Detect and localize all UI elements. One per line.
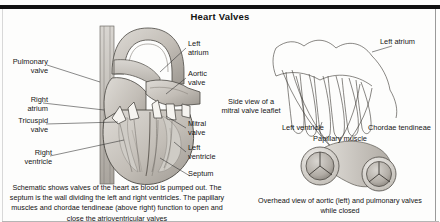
label-right-ventricle: Right ventricle [6, 149, 52, 166]
figure-frame: Heart Valves [0, 0, 440, 222]
label-left-atrium: Left atrium [188, 40, 228, 57]
aortic-pulmonary-overhead-group [301, 141, 396, 191]
label-aortic-valve: Aortic valve [188, 70, 228, 87]
label-left-ventricle: Left ventricle [188, 144, 232, 161]
aortic-valve-disc [301, 147, 339, 185]
label-side-view-note: Side view of a mitral valve leaflet [205, 98, 297, 115]
label-septum: Septum [188, 170, 232, 179]
figure-caption-right: Overhead view of aortic (left) and pulmo… [250, 196, 430, 216]
label-left-atrium-right: Left atrium [380, 38, 438, 47]
pulmonary-valve-disc [362, 157, 396, 191]
label-pulmonary-valve: Pulmonary valve [6, 58, 48, 75]
label-right-atrium: Right atrium [10, 96, 48, 113]
figure-caption-main: Schematic shows valves of the heart as b… [6, 183, 228, 222]
heart-cutaway-group [100, 26, 200, 184]
label-tricuspid-valve: Tricuspid valve [4, 117, 48, 134]
label-chordae-tendineae: Chordae tendineae [368, 124, 440, 133]
leader-lines-right-top [320, 46, 392, 128]
label-mitral-valve: Mitral valve [188, 120, 228, 137]
label-left-ventricle-right: Left ventricle [282, 124, 334, 133]
label-papillary-muscle: Papillary muscle [300, 135, 380, 144]
